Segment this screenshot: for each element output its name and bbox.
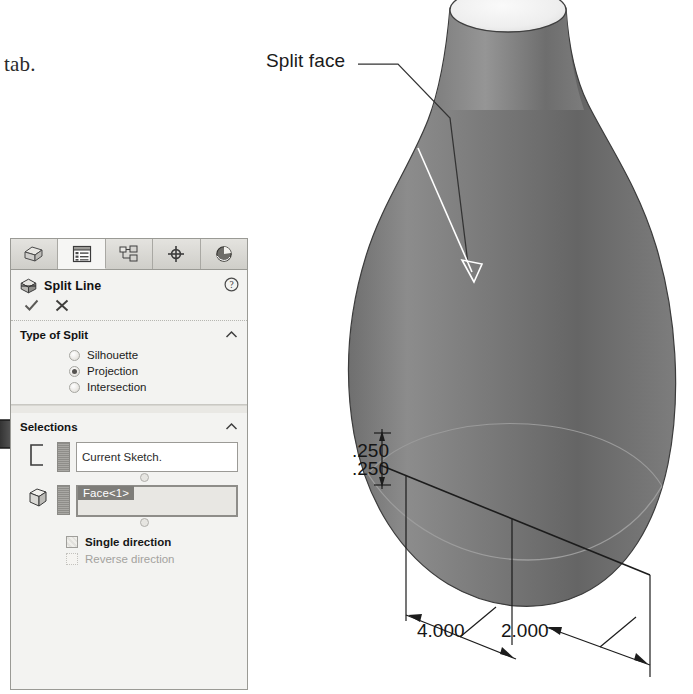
split-line-icon — [20, 278, 37, 294]
close-x-icon[interactable] — [55, 299, 69, 314]
tab-configuration-manager[interactable] — [106, 239, 153, 269]
sketch-field-handle-wrap — [41, 472, 247, 482]
radio-projection[interactable] — [69, 366, 80, 377]
dim-2000-value: 2.000 — [501, 620, 549, 642]
property-list-icon — [72, 245, 92, 263]
radio-label-projection: Projection — [87, 365, 138, 377]
faces-selection-listbox[interactable]: Face<1> — [76, 485, 238, 517]
tab-property-manager[interactable] — [58, 239, 105, 269]
property-manager-tabstrip — [11, 239, 247, 270]
chevron-up-icon[interactable] — [225, 329, 238, 341]
radio-row-projection[interactable]: Projection — [11, 363, 247, 379]
resize-handle-dot-2[interactable] — [140, 518, 149, 527]
datum-slant-line — [380, 465, 650, 575]
split-face-label: Split face — [266, 50, 345, 72]
dimensions-overlay: .250 x — [350, 415, 693, 694]
checkbox-reverse-direction — [66, 553, 78, 565]
sketch-selection-field[interactable]: Current Sketch. — [76, 442, 238, 472]
page-body-text: tab. — [4, 52, 36, 77]
tab-dimxpert-manager[interactable] — [153, 239, 200, 269]
checkmark-icon[interactable] — [24, 299, 39, 314]
radio-label-silhouette: Silhouette — [87, 349, 138, 361]
dim-4000-leader — [460, 607, 496, 637]
panel-title: Split Line — [44, 279, 101, 293]
sketch-region-icon — [25, 442, 51, 468]
checkbox-row-single-direction[interactable]: Single direction — [11, 527, 247, 550]
checkbox-single-direction[interactable] — [66, 536, 78, 548]
feature-tree-icon — [23, 245, 45, 263]
callout-leader-line — [358, 64, 468, 264]
radio-label-intersection: Intersection — [87, 381, 146, 393]
radio-row-intersection[interactable]: Intersection — [11, 379, 247, 395]
section-title-type-of-split: Type of Split — [20, 329, 88, 341]
chevron-up-icon-selections[interactable] — [225, 421, 238, 433]
help-question-icon[interactable]: ? — [224, 277, 239, 294]
dim-2000-arrow-a — [548, 627, 562, 635]
faces-field-handle-wrap — [41, 517, 247, 527]
crosshair-target-icon — [166, 245, 186, 263]
appearance-sphere-icon — [214, 245, 234, 263]
configuration-icon — [119, 245, 139, 263]
tab-display-manager[interactable] — [201, 239, 247, 269]
faces-selection-row: Face<1> — [11, 482, 247, 517]
sketch-color-swatch[interactable] — [57, 442, 70, 472]
dim-2000-leader — [600, 617, 636, 647]
radio-silhouette[interactable] — [69, 350, 80, 361]
svg-text:?: ? — [229, 280, 233, 290]
confirm-corner — [11, 298, 247, 321]
sketch-selection-row: Current Sketch. — [11, 439, 247, 472]
dim-250-value: .250 — [352, 440, 389, 462]
resize-handle-dot[interactable] — [140, 473, 149, 482]
property-manager-panel: Split Line ? Type of Split — [10, 238, 248, 690]
dim-4000-arrow-b — [500, 647, 514, 658]
checkbox-label-single-direction: Single direction — [85, 536, 171, 548]
radio-row-silhouette[interactable]: Silhouette — [11, 347, 247, 363]
section-header-type-of-split[interactable]: Type of Split — [11, 321, 247, 347]
property-manager-header: Split Line ? — [11, 270, 247, 298]
callout-arrow-shaft — [418, 148, 472, 272]
list-item-face-1[interactable]: Face<1> — [78, 486, 134, 500]
face-cube-icon — [25, 485, 51, 511]
tab-feature-manager[interactable] — [11, 239, 58, 269]
checkbox-label-reverse-direction: Reverse direction — [85, 553, 174, 565]
section-title-selections: Selections — [20, 421, 78, 433]
checkbox-row-reverse-direction: Reverse direction — [11, 550, 247, 567]
faces-color-swatch[interactable] — [57, 485, 70, 515]
dim-4000-value: 4.000 — [417, 620, 465, 642]
section-band — [11, 405, 247, 413]
radio-intersection[interactable] — [69, 382, 80, 393]
section-header-selections[interactable]: Selections — [11, 413, 247, 439]
